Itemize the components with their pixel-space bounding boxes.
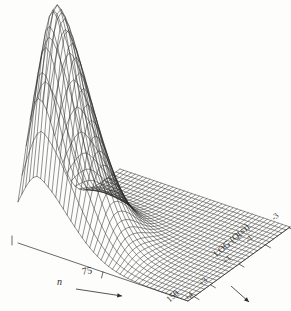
axis-arrows bbox=[76, 286, 249, 302]
surface-plot-figure: n 75 150 LOG (Q(s)) +4 +3 +1 -1 -3 bbox=[0, 0, 291, 311]
wireframe-surface-svg bbox=[0, 0, 291, 311]
x-axis-tick-75: 75 bbox=[81, 265, 92, 276]
x-axis-label: n bbox=[57, 277, 62, 287]
